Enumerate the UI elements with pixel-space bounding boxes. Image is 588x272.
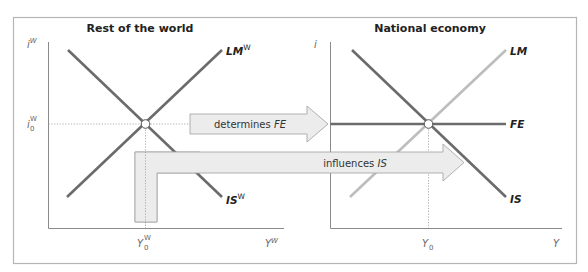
y-axis-label-national: i — [314, 39, 317, 50]
svg-text:W: W — [144, 234, 151, 242]
is-lm-fe-diagram: Rest of the world National economy infl — [0, 0, 588, 272]
is-label: IS — [510, 193, 521, 205]
svg-text:Y: Y — [422, 238, 429, 249]
fe-label: FE — [510, 118, 525, 130]
equilibrium-point-national — [424, 120, 433, 129]
figure-frame — [14, 18, 577, 264]
panel-title-rest-of-world: Rest of the world — [87, 22, 194, 35]
determines-fe-label: determines FE — [214, 119, 287, 130]
svg-text:0: 0 — [144, 244, 148, 252]
panel-title-national-economy: National economy — [374, 22, 486, 35]
svg-text:W: W — [30, 115, 37, 123]
equilibrium-point-world — [141, 120, 150, 129]
lm-label: LM — [510, 45, 528, 57]
x-axis-label-national: Y — [553, 238, 560, 249]
influences-is-label: influences IS — [323, 158, 387, 169]
svg-text:0: 0 — [429, 244, 433, 252]
svg-text:0: 0 — [30, 125, 34, 133]
svg-text:Y: Y — [137, 238, 144, 249]
